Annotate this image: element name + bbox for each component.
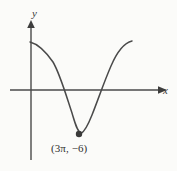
minimum-point-label: (3π, −6): [51, 143, 87, 154]
x-axis-label: x: [163, 85, 168, 96]
function-curve: [30, 41, 132, 134]
graph-canvas: [0, 0, 177, 171]
graph-figure: y x (3π, −6): [0, 0, 177, 171]
y-axis-arrowhead-icon: [27, 20, 35, 28]
y-axis-label: y: [32, 8, 37, 19]
minimum-point-marker: [76, 131, 82, 137]
